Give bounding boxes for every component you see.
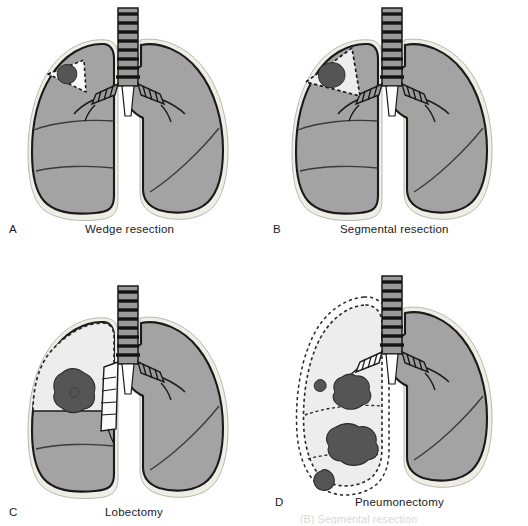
tumor-lower-lobe [314,470,334,491]
right-lobar-bronchus [101,362,118,431]
lung-diagram-d [264,263,528,526]
panel-letter-c: C [9,506,18,518]
cut-off-caption: (B) Segmental resection [300,513,417,524]
panel-caption-d: Pneumonectomy [355,496,444,508]
trachea [118,286,138,364]
panel-letter-a: A [9,223,17,235]
panel-caption-c: Lobectomy [105,506,163,518]
figure-panel-grid: A Wedge resection [0,0,528,526]
tumor [318,63,345,88]
panel-segmental-resection: B Segmental resection [264,0,528,263]
panel-lobectomy: C Lobectomy [0,263,264,526]
panel-letter-d: D [275,496,284,508]
trachea [382,8,402,86]
trachea [382,276,402,354]
panel-letter-b: B [273,223,281,235]
tumor-middle-lobe [327,424,379,466]
trachea [118,8,138,86]
panel-wedge-resection: A Wedge resection [0,0,264,263]
tumor [54,369,95,413]
tumor-small-upper [314,379,326,391]
panel-caption-b: Segmental resection [340,223,449,235]
panel-pneumonectomy: D Pneumonectomy [264,263,528,526]
lung-diagram-c [0,263,264,526]
panel-caption-a: Wedge resection [85,223,174,235]
tumor [57,65,77,84]
tumor-upper-lobe [333,374,371,409]
